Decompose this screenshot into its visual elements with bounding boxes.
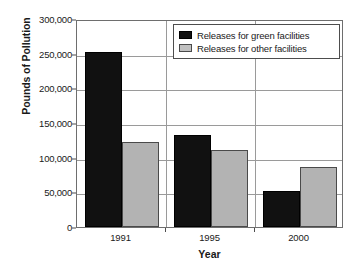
bar-1995-green [174, 135, 211, 227]
x-axis-tick-label: 1995 [165, 232, 254, 243]
x-axis-tick-label: 1991 [76, 232, 165, 243]
y-axis-tick-label: 0 [0, 222, 72, 233]
y-axis-tick-label: 250,000 [0, 49, 72, 60]
legend-swatch-green-icon [179, 31, 192, 39]
category-separator [166, 21, 167, 227]
legend-label-green: Releases for green facilities [197, 30, 309, 41]
legend-item-green: Releases for green facilities [179, 29, 334, 41]
y-axis-tick-label: 150,000 [0, 118, 72, 129]
legend-item-other: Releases for other facilities [179, 42, 334, 54]
y-axis-tick-label: 200,000 [0, 83, 72, 94]
x-axis-tick-label: 2000 [254, 232, 343, 243]
plot-area: Releases for green facilities Releases f… [76, 20, 343, 228]
bar-2000-green [263, 191, 300, 227]
legend-swatch-other-icon [179, 44, 192, 52]
x-axis-title: Year [76, 248, 343, 260]
y-axis-tick-label: 300,000 [0, 14, 72, 25]
bar-2000-other [300, 167, 337, 227]
bar-1991-other [122, 142, 159, 227]
legend: Releases for green facilities Releases f… [173, 24, 340, 59]
y-axis-tick-label: 100,000 [0, 153, 72, 164]
y-axis-tick-label: 50,000 [0, 187, 72, 198]
bar-1995-other [211, 150, 248, 227]
bar-chart: Pounds of Pollution Year 050,000100,0001… [0, 0, 359, 271]
legend-label-other: Releases for other facilities [197, 43, 307, 54]
bar-1991-green [85, 52, 122, 227]
